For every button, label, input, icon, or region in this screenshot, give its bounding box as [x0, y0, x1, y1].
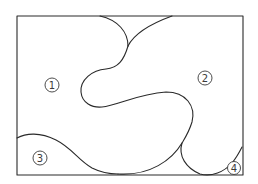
boundary-region-3 — [17, 134, 118, 174]
region-label-1: 1 — [45, 78, 59, 92]
frame-border — [17, 16, 243, 175]
region-label-2: 2 — [198, 71, 212, 85]
region-label-4: 4 — [228, 162, 241, 175]
region-diagram: 1 2 3 4 — [0, 0, 258, 184]
region-label-3: 3 — [33, 151, 47, 165]
boundary-top-left-arc — [100, 16, 128, 46]
region-2-number: 2 — [202, 73, 208, 84]
region-4-number: 4 — [231, 163, 237, 174]
boundary-main-s-curve — [81, 46, 193, 174]
boundary-top-right-arc — [128, 16, 172, 46]
region-3-number: 3 — [37, 153, 43, 164]
region-1-number: 1 — [49, 80, 55, 91]
